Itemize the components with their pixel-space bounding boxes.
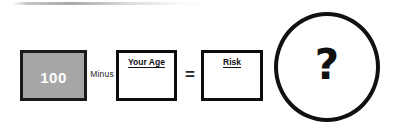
your-age-box[interactable]: Your Age <box>116 50 177 101</box>
your-age-label: Your Age <box>119 58 174 67</box>
question-mark-icon: ? <box>315 44 339 90</box>
question-circle: ? <box>274 12 380 122</box>
risk-label: Risk <box>204 58 260 67</box>
risk-box[interactable]: Risk <box>201 50 263 101</box>
equals-operator: = <box>179 66 201 83</box>
equation-row: 100 Minus Your Age = Risk ? <box>0 0 402 137</box>
diagram-canvas: 100 Minus Your Age = Risk ? <box>0 0 402 137</box>
constant-100-value: 100 <box>40 66 67 85</box>
minus-operator: Minus <box>89 70 115 79</box>
constant-100-box: 100 <box>20 50 87 101</box>
